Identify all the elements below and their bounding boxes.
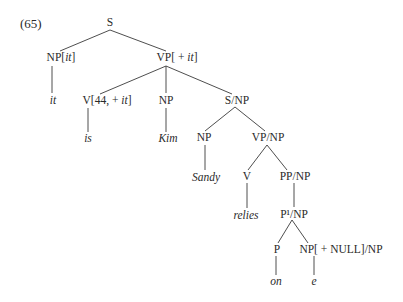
node-v-44: V[44, + it]	[83, 95, 132, 107]
node-np-kim: NP	[159, 95, 174, 107]
node-np-it: NP[it]	[47, 52, 76, 64]
node-vp-slash-np: VP/NP	[252, 132, 285, 144]
node-vp-base: VP[ +	[156, 51, 187, 63]
leaf-is: is	[84, 133, 92, 145]
leaf-relies: relies	[233, 210, 258, 222]
node-np-null-slash-np: NP[ + NULL]/NP	[299, 244, 382, 256]
leaf-kim: Kim	[158, 133, 177, 145]
node-s: S	[107, 17, 113, 29]
node-v44-close: ]	[128, 94, 132, 106]
node-vp-plus-it: VP[ + it]	[156, 52, 197, 64]
example-number: (65)	[20, 16, 42, 32]
leaf-it: it	[50, 95, 56, 107]
node-pp-slash-np: PP/NP	[280, 171, 311, 183]
node-np-sandy: NP	[197, 132, 212, 144]
node-np-it-base: NP[	[47, 51, 66, 63]
syntax-tree: (65) S NP[it] VP[ + it] it V[44, + it] N…	[0, 0, 403, 302]
leaf-on: on	[270, 276, 282, 288]
leaf-e: e	[311, 276, 316, 288]
node-p: P	[274, 244, 280, 256]
node-v44-base: V[44, +	[83, 94, 122, 106]
node-vp-close: ]	[194, 51, 198, 63]
node-s-slash-np: S/NP	[225, 95, 249, 107]
node-pbar-slash-np: P¹/NP	[280, 209, 308, 221]
node-np-it-close: ]	[72, 51, 76, 63]
node-v: V	[243, 171, 251, 183]
leaf-sandy: Sandy	[192, 172, 220, 184]
tree-edges	[0, 0, 403, 302]
